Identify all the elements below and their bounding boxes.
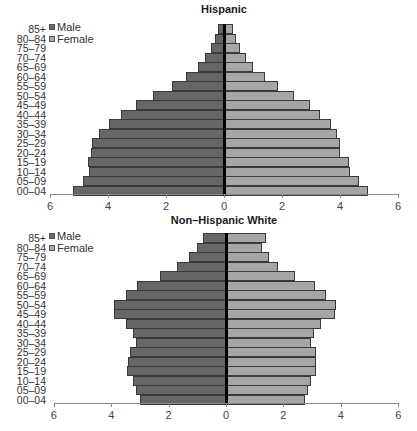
bar-female bbox=[224, 176, 359, 186]
plot-area: 6420246 bbox=[0, 210, 417, 431]
x-tick bbox=[108, 194, 109, 198]
bar-female bbox=[226, 347, 316, 357]
bar-female bbox=[226, 328, 314, 338]
bar-male bbox=[197, 243, 226, 253]
bar-female bbox=[224, 72, 265, 82]
bar-female bbox=[224, 53, 246, 63]
bar-male bbox=[128, 357, 226, 367]
x-tick-label: 2 bbox=[159, 409, 179, 421]
bar-female bbox=[226, 233, 266, 243]
bar-female bbox=[226, 281, 315, 291]
bar-male bbox=[153, 91, 224, 101]
x-tick bbox=[111, 403, 112, 407]
bar-female bbox=[224, 138, 340, 148]
x-tick bbox=[226, 403, 227, 407]
x-tick bbox=[166, 194, 167, 198]
bar-male bbox=[114, 309, 226, 319]
bar-male bbox=[83, 176, 224, 186]
x-tick bbox=[50, 194, 51, 198]
bar-female bbox=[226, 252, 269, 262]
bar-male bbox=[89, 167, 224, 177]
bar-female bbox=[224, 157, 349, 167]
bar-female bbox=[224, 148, 340, 158]
bar-male bbox=[136, 338, 226, 348]
bar-female bbox=[226, 271, 295, 281]
bar-female bbox=[226, 338, 311, 348]
x-tick-label: 6 bbox=[44, 409, 64, 421]
bar-female bbox=[224, 91, 294, 101]
bar-female bbox=[224, 100, 310, 110]
bar-male bbox=[186, 72, 224, 82]
bar-female bbox=[226, 319, 321, 329]
bar-female bbox=[226, 262, 278, 272]
bar-male bbox=[133, 328, 226, 338]
bar-female bbox=[224, 81, 278, 91]
bar-male bbox=[88, 157, 224, 167]
bar-female bbox=[224, 167, 350, 177]
x-tick-label: 4 bbox=[101, 409, 121, 421]
plot-area: 6420246 bbox=[0, 0, 417, 210]
x-tick bbox=[224, 194, 225, 198]
bar-male bbox=[127, 366, 226, 376]
bar-male bbox=[126, 319, 226, 329]
bar-male bbox=[109, 119, 224, 129]
bar-male bbox=[99, 129, 224, 139]
bar-male bbox=[160, 271, 226, 281]
x-tick bbox=[340, 194, 341, 198]
bar-male bbox=[203, 233, 226, 243]
bar-male bbox=[189, 252, 226, 262]
bar-female bbox=[224, 129, 337, 139]
bar-female bbox=[224, 62, 253, 72]
x-tick bbox=[341, 403, 342, 407]
bar-male bbox=[172, 81, 224, 91]
bar-female bbox=[226, 243, 262, 253]
x-tick bbox=[54, 403, 55, 407]
bar-male bbox=[198, 62, 224, 72]
bar-female bbox=[226, 300, 336, 310]
x-tick-label: 6 bbox=[388, 409, 408, 421]
bar-male bbox=[130, 347, 226, 357]
x-tick-label: 0 bbox=[216, 409, 236, 421]
center-axis-line bbox=[223, 24, 226, 196]
bar-male bbox=[137, 281, 226, 291]
bar-female bbox=[226, 366, 316, 376]
center-axis-line bbox=[225, 233, 228, 405]
bar-male bbox=[133, 376, 226, 386]
chart-panel-non-hispanic-white: Non–Hispanic White 85+80–8475–7970–7465–… bbox=[0, 210, 417, 431]
bar-female bbox=[226, 357, 316, 367]
x-tick bbox=[398, 403, 399, 407]
bar-male bbox=[121, 110, 224, 120]
bar-male bbox=[205, 53, 224, 63]
x-tick-label: 2 bbox=[273, 409, 293, 421]
bar-female bbox=[226, 385, 308, 395]
bar-male bbox=[114, 300, 226, 310]
bar-male bbox=[126, 290, 226, 300]
chart-panel-hispanic: Hispanic 85+80–8475–7970–7465–6960–6455–… bbox=[0, 0, 417, 210]
x-tick bbox=[283, 403, 284, 407]
x-tick-label: 4 bbox=[331, 409, 351, 421]
bar-male bbox=[136, 385, 226, 395]
x-tick bbox=[398, 194, 399, 198]
bar-male bbox=[92, 138, 224, 148]
bar-female bbox=[224, 119, 331, 129]
bar-female bbox=[224, 43, 240, 53]
x-tick bbox=[282, 194, 283, 198]
bar-female bbox=[226, 376, 311, 386]
x-tick bbox=[169, 403, 170, 407]
bar-male bbox=[177, 262, 226, 272]
bar-male bbox=[136, 100, 224, 110]
bar-male bbox=[91, 148, 224, 158]
bar-female bbox=[226, 290, 326, 300]
bar-female bbox=[224, 110, 320, 120]
bar-female bbox=[226, 309, 335, 319]
